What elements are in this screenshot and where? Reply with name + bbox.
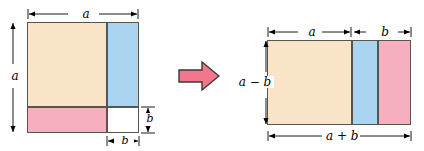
left-tan-region (27, 22, 107, 107)
left-pink-region (27, 107, 107, 133)
left-blue-region (107, 22, 139, 107)
geometric-identity-figure: a a b b a b a − b a + b (0, 0, 424, 151)
left-side-a-label: a (5, 70, 25, 82)
right-top-b-label: b (376, 26, 394, 38)
right-arrow-icon (178, 60, 220, 92)
left-top-a-label: a (76, 8, 96, 20)
right-pink-region (378, 40, 411, 125)
right-bottom-a-plus-b-label: a + b (324, 130, 360, 142)
right-top-a-label: a (302, 26, 322, 38)
right-side-a-minus-b-label: a − b (236, 76, 274, 88)
right-blue-region (352, 40, 378, 125)
right-tan-region (267, 40, 352, 125)
left-right-b-label: b (141, 113, 159, 124)
left-bottom-b-label: b (116, 135, 134, 146)
left-white-cutout (107, 107, 139, 133)
